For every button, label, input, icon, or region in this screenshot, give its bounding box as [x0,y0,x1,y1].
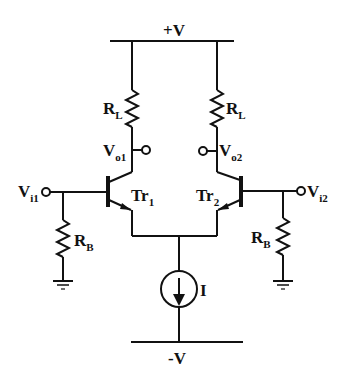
bias-resistor-right-label: RB [251,229,271,246]
vo1-label: Vo1 [103,142,126,159]
vi1-terminal-icon [42,188,50,196]
vi2-terminal-icon [297,187,305,195]
transistor-left-label: Tr1 [131,187,154,204]
transistor-right-label: Tr2 [196,187,219,204]
current-arrow-icon [173,294,185,306]
emitter-arrow-left-icon [120,203,131,210]
positive-supply-label: +V [163,22,185,39]
vi1-label: Vi1 [18,183,39,200]
bias-resistor-left-label: RB [74,232,94,249]
bias-resistor-left-icon [57,220,69,257]
emitter-arrow-right-icon [218,203,229,210]
load-resistor-left-icon [126,90,138,127]
load-resistor-left-label: RL [103,100,123,117]
vo2-terminal-icon [199,147,207,155]
load-resistor-right-icon [211,90,223,127]
load-resistor-right-label: RL [226,100,246,117]
circuit-schematic [0,0,341,374]
vi2-label: Vi2 [307,183,328,200]
negative-supply-label: -V [168,350,186,367]
vo1-terminal-icon [142,146,150,154]
differential-amplifier-diagram: +V -V I RL RL Vo1 Vo2 Vi1 Vi2 Tr1 Tr2 RB… [0,0,341,374]
bias-resistor-right-icon [277,218,289,255]
current-source-label: I [200,282,207,299]
vo2-label: Vo2 [219,142,242,159]
